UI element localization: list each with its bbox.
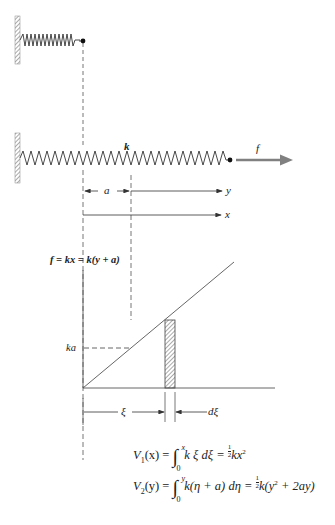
y-axis-arrow: y bbox=[131, 184, 231, 196]
top-spring-coil bbox=[20, 34, 80, 46]
dimension-a: a bbox=[85, 184, 129, 196]
main-wall bbox=[15, 133, 20, 183]
top-spring-assembly bbox=[15, 16, 85, 64]
equation-v2: V2(y) = ∫y0 k(η + a) dη = 12k(y2 + 2ay) bbox=[133, 475, 315, 499]
dxi-label: dξ bbox=[208, 405, 219, 418]
ka-label: ka bbox=[66, 342, 76, 353]
force-label: f bbox=[256, 142, 261, 154]
top-spring-end-dot bbox=[81, 39, 86, 44]
xi-label: ξ bbox=[121, 405, 126, 418]
force-displacement-graph: f = kx = k(y + a) ka ξ dξ bbox=[50, 254, 275, 425]
top-wall bbox=[15, 16, 20, 64]
integral-sign: ∫x0 bbox=[173, 445, 178, 467]
force-equation-label: f = kx = k(y + a) bbox=[50, 254, 120, 266]
spring-constant-label: k bbox=[124, 140, 130, 152]
force-line bbox=[83, 262, 234, 388]
svg-text:x: x bbox=[224, 208, 230, 220]
hatched-strip bbox=[165, 320, 175, 388]
main-spring-end-dot bbox=[228, 158, 233, 163]
equation-v1: V1(x) = ∫x0 k ξ dξ = 12kx2 bbox=[133, 444, 246, 468]
x-axis-arrow: x bbox=[83, 208, 230, 220]
force-arrow: f bbox=[236, 142, 293, 166]
integral-sign: ∫y0 bbox=[173, 476, 178, 498]
svg-text:a: a bbox=[104, 184, 110, 196]
svg-text:y: y bbox=[225, 184, 231, 196]
main-spring-assembly: k bbox=[15, 133, 232, 183]
main-spring-coil bbox=[20, 151, 229, 165]
